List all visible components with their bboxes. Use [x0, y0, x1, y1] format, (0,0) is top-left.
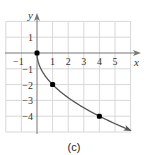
x-axis-label: x — [133, 56, 139, 68]
data-point — [50, 82, 55, 87]
y-axis-label: y — [27, 9, 33, 21]
data-point — [35, 51, 40, 56]
y-tick-label: 1 — [28, 32, 33, 43]
y-tick-label: −1 — [22, 64, 33, 75]
x-tick-label: 1 — [50, 56, 55, 67]
data-point — [97, 114, 102, 119]
y-tick-labels: 1−1−2−3−4 — [22, 32, 33, 122]
x-tick-label: 5 — [113, 56, 118, 67]
x-tick-label: 3 — [81, 56, 86, 67]
figure-caption: (c) — [68, 141, 81, 153]
y-tick-label: −2 — [22, 80, 33, 91]
y-tick-label: −4 — [22, 111, 33, 122]
y-tick-label: −3 — [22, 95, 33, 106]
x-tick-label: 4 — [97, 56, 102, 67]
x-tick-label: 2 — [66, 56, 71, 67]
graph-figure: x y −112345 1−1−2−3−4 (c) — [0, 0, 149, 155]
